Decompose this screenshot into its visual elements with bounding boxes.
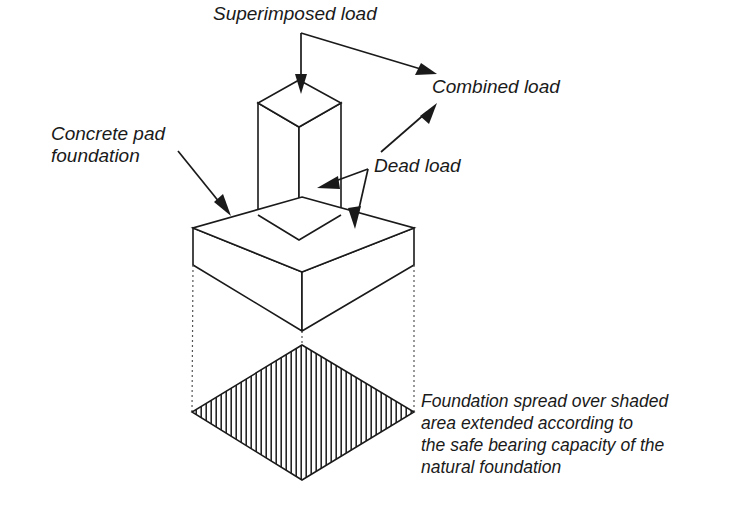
caption-line-1: Foundation spread over shaded — [421, 391, 669, 411]
concrete-pad-leader-line — [178, 151, 220, 203]
projection-line-left — [192, 265, 193, 412]
label-combined-load: Combined load — [432, 76, 561, 97]
caption-line-3: the safe bearing capacity of the — [421, 435, 664, 455]
spread-area-group — [192, 345, 414, 480]
label-concrete-pad-line2: foundation — [51, 145, 140, 166]
dead-to-combined-line — [381, 112, 427, 152]
label-concrete-pad-line1: Concrete pad — [51, 123, 167, 144]
concrete-pad-arrow-icon — [214, 194, 231, 216]
combined-load-arrow-from-dead-icon — [420, 103, 437, 124]
shaded-spread-area — [192, 345, 414, 480]
concrete-pad-leader — [178, 151, 231, 216]
label-superimposed-load: Superimposed load — [213, 3, 378, 24]
diagram-canvas: Superimposed load Combined load Dead loa… — [0, 0, 749, 516]
superimposed-load-leader — [295, 33, 437, 94]
pad-foundation-group — [193, 197, 414, 331]
combined-load-arrow-from-superimposed-icon — [415, 63, 437, 75]
foundation-diagram: Superimposed load Combined load Dead loa… — [0, 0, 749, 516]
label-dead-load: Dead load — [374, 155, 462, 176]
caption-line-4: natural foundation — [421, 457, 561, 477]
caption-line-2: area extended according to — [421, 413, 633, 433]
superimposed-to-combined-line — [301, 33, 424, 70]
